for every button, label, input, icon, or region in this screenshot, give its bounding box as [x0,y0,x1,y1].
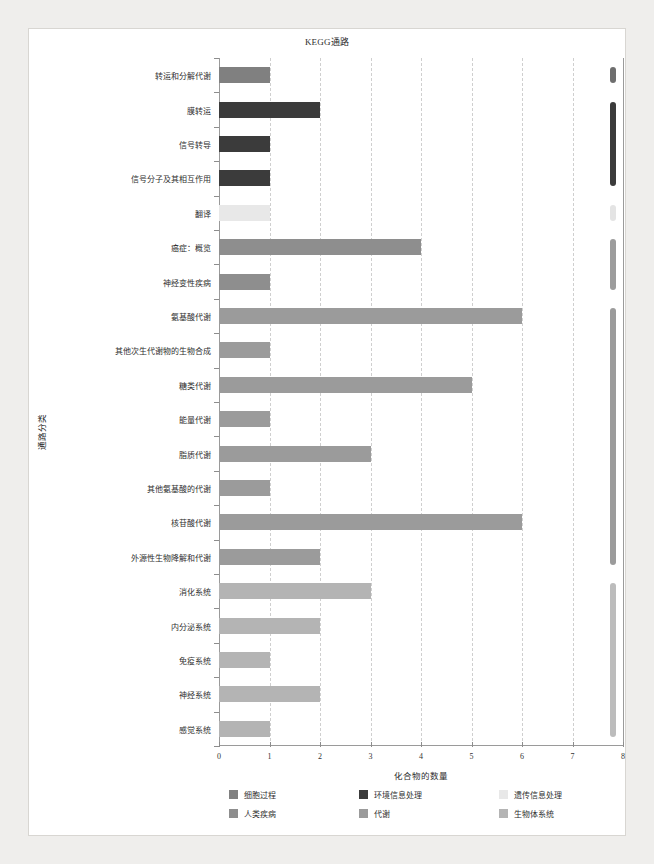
y-tick-label: 核苷酸代谢 [171,517,211,528]
x-tick-label: 1 [268,752,272,761]
gridline [421,58,422,746]
bar[interactable] [219,67,270,83]
bar[interactable] [219,514,522,530]
legend-swatch-icon [499,790,508,799]
y-tick [214,402,219,403]
y-tick-label: 感觉系统 [179,723,211,734]
x-tick [270,742,271,747]
bar[interactable] [219,618,320,634]
y-tick [214,127,219,128]
legend-swatch-icon [359,809,368,818]
x-axis-label: 化合物的数量 [219,769,623,781]
y-tick-label: 神经变性疾病 [163,276,211,287]
bar[interactable] [219,446,371,462]
group-marker-环境信息处理 [610,102,616,187]
group-marker-细胞过程 [610,67,616,83]
y-tick [214,299,219,300]
gridline [371,58,372,746]
y-tick-label: 癌症：概览 [171,242,211,253]
legend-item[interactable]: 遗传信息处理 [499,789,562,800]
y-tick [214,196,219,197]
y-tick-label: 其他次生代谢物的生物合成 [115,345,211,356]
y-tick [214,746,219,747]
x-tick-label: 0 [217,752,221,761]
bar-row[interactable]: 癌症：概览 [219,239,623,255]
bar-row[interactable]: 免疫系统 [219,652,623,668]
legend-item[interactable]: 细胞过程 [229,789,276,800]
chart-legend: 细胞过程环境信息处理遗传信息处理人类疾病代谢生物体系统 [29,789,625,829]
bar[interactable] [219,686,320,702]
plot-area: 012345678 转运和分解代谢膜转运信号转导信号分子及其相互作用翻译癌症：概… [219,58,623,746]
bar[interactable] [219,239,421,255]
y-tick-label: 信号转导 [179,139,211,150]
x-tick-label: 4 [419,752,423,761]
bar[interactable] [219,480,270,496]
bar[interactable] [219,721,270,737]
y-tick [214,92,219,93]
bar-row[interactable]: 其他次生代谢物的生物合成 [219,342,623,358]
bar-row[interactable]: 氨基酸代谢 [219,308,623,324]
bar[interactable] [219,205,270,221]
y-tick-label: 氨基酸代谢 [171,311,211,322]
bar[interactable] [219,136,270,152]
y-tick [214,264,219,265]
x-tick [522,742,523,747]
bar-row[interactable]: 信号转导 [219,136,623,152]
y-tick [214,161,219,162]
legend-label: 遗传信息处理 [514,789,562,800]
bar-row[interactable]: 糖类代谢 [219,377,623,393]
chart-title: KEGG通路 [29,35,625,48]
bar-row[interactable]: 转运和分解代谢 [219,67,623,83]
bar-row[interactable]: 脂质代谢 [219,446,623,462]
bar[interactable] [219,308,522,324]
legend-label: 细胞过程 [244,789,276,800]
bar-row[interactable]: 消化系统 [219,583,623,599]
bar-row[interactable]: 内分泌系统 [219,618,623,634]
bar-row[interactable]: 核苷酸代谢 [219,514,623,530]
bar-row[interactable]: 膜转运 [219,102,623,118]
x-tick-label: 7 [571,752,575,761]
bar[interactable] [219,102,320,118]
gridline [472,58,473,746]
gridline [573,58,574,746]
legend-item[interactable]: 代谢 [359,808,390,819]
legend-label: 代谢 [374,808,390,819]
bar[interactable] [219,652,270,668]
legend-item[interactable]: 生物体系统 [499,808,554,819]
x-tick-label: 6 [520,752,524,761]
y-tick [214,608,219,609]
bar-row[interactable]: 外源性生物降解和代谢 [219,549,623,565]
bar[interactable] [219,411,270,427]
y-tick-label: 脂质代谢 [179,448,211,459]
legend-swatch-icon [229,809,238,818]
bar[interactable] [219,342,270,358]
bar-row[interactable]: 能量代谢 [219,411,623,427]
bar-row[interactable]: 神经变性疾病 [219,274,623,290]
bar[interactable] [219,583,371,599]
bar-row[interactable]: 信号分子及其相互作用 [219,170,623,186]
x-tick-label: 2 [318,752,322,761]
bar[interactable] [219,377,472,393]
y-axis-label: 通路分类 [35,414,47,450]
bar[interactable] [219,274,270,290]
bar-row[interactable]: 神经系统 [219,686,623,702]
bar-row[interactable]: 其他氨基酸的代谢 [219,480,623,496]
bar[interactable] [219,549,320,565]
bar[interactable] [219,170,270,186]
gridline [270,58,271,746]
y-tick [214,58,219,59]
legend-item[interactable]: 人类疾病 [229,808,276,819]
group-marker-人类疾病 [610,239,616,289]
legend-swatch-icon [229,790,238,799]
x-tick-label: 3 [369,752,373,761]
legend-item[interactable]: 环境信息处理 [359,789,422,800]
y-tick-label: 消化系统 [179,586,211,597]
x-tick [421,742,422,747]
legend-swatch-icon [359,790,368,799]
group-marker-遗传信息处理 [610,205,616,221]
bar-row[interactable]: 感觉系统 [219,721,623,737]
bar-row[interactable]: 翻译 [219,205,623,221]
x-tick [623,742,624,747]
y-tick [214,505,219,506]
y-tick [214,540,219,541]
